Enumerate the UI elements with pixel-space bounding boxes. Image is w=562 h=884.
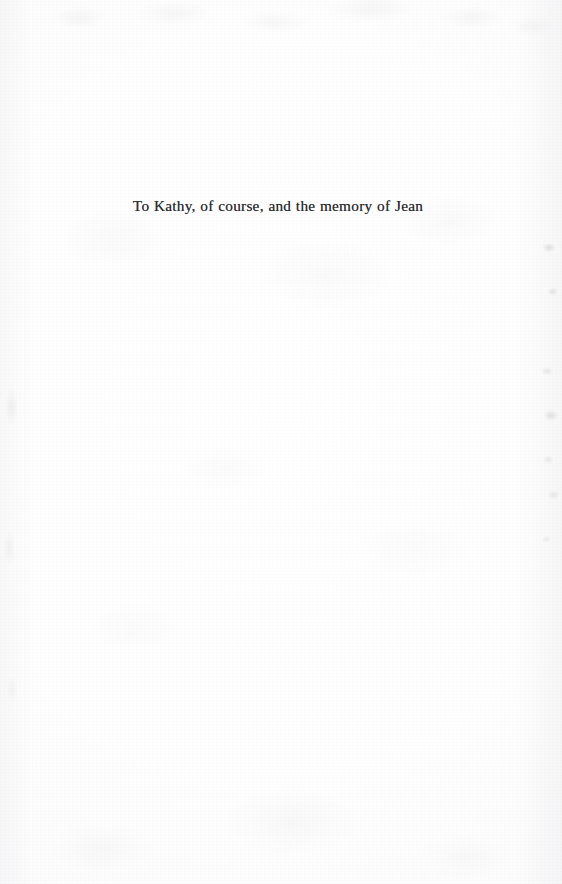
scanned-page: To Kathy, of course, and the memory of J… bbox=[0, 0, 562, 884]
dedication-block: To Kathy, of course, and the memory of J… bbox=[0, 196, 562, 215]
scan-mottling-texture bbox=[0, 0, 562, 884]
paper-grain-texture bbox=[0, 0, 562, 884]
left-margin-shading bbox=[0, 0, 34, 884]
paper-background bbox=[0, 0, 562, 884]
right-margin-speckles bbox=[516, 0, 562, 884]
dedication-text: To Kathy, of course, and the memory of J… bbox=[133, 196, 423, 215]
